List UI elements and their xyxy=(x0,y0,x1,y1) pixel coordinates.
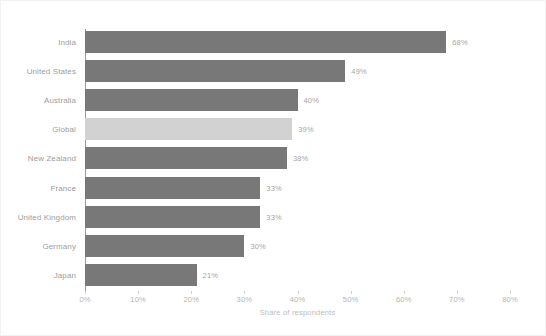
bar-row: France33% xyxy=(85,177,510,199)
category-label: India xyxy=(58,38,76,47)
bar-value-label: 39% xyxy=(298,125,314,134)
x-tick-label: 70% xyxy=(449,295,465,304)
x-tick-mark xyxy=(191,291,192,294)
bar-value-label: 30% xyxy=(250,241,266,250)
bar-row: United States49% xyxy=(85,60,510,82)
bar-row: Japan21% xyxy=(85,264,510,286)
bar[interactable] xyxy=(85,264,197,286)
bar-value-label: 40% xyxy=(304,96,320,105)
bar[interactable] xyxy=(85,235,244,257)
x-tick-label: 10% xyxy=(130,295,146,304)
x-tick-mark xyxy=(457,291,458,294)
x-tick-mark xyxy=(85,291,86,294)
category-label: Global xyxy=(52,125,76,134)
x-tick-mark xyxy=(510,291,511,294)
bar[interactable] xyxy=(85,177,260,199)
category-label: Australia xyxy=(44,96,76,105)
x-tick-label: 30% xyxy=(237,295,253,304)
x-axis-title: Share of respondents xyxy=(85,308,510,317)
x-tick-mark xyxy=(244,291,245,294)
x-tick-mark xyxy=(351,291,352,294)
bar-row: United Kingdom33% xyxy=(85,206,510,228)
x-axis: 0%10%20%30%40%50%60%70%80% xyxy=(85,291,510,307)
category-label: United States xyxy=(27,67,76,76)
bar[interactable] xyxy=(85,89,298,111)
bar[interactable] xyxy=(85,206,260,228)
bar[interactable] xyxy=(85,31,446,53)
bar-value-label: 21% xyxy=(203,270,219,279)
plot-area: India68%United States49%Australia40%Glob… xyxy=(85,29,510,291)
bar-value-label: 33% xyxy=(266,212,282,221)
bar-value-label: 33% xyxy=(266,183,282,192)
bar-row: India68% xyxy=(85,31,510,53)
x-tick-label: 60% xyxy=(396,295,412,304)
x-tick-label: 20% xyxy=(183,295,199,304)
x-tick-mark xyxy=(298,291,299,294)
category-label: New Zealand xyxy=(28,154,76,163)
x-tick-label: 40% xyxy=(290,295,306,304)
category-label: Japan xyxy=(54,270,76,279)
bar-row: Global39% xyxy=(85,118,510,140)
x-tick-label: 50% xyxy=(343,295,359,304)
bar-value-label: 68% xyxy=(452,38,468,47)
x-tick-label: 80% xyxy=(502,295,518,304)
bar-row: Australia40% xyxy=(85,89,510,111)
category-label: Germany xyxy=(42,241,76,250)
bar-value-label: 38% xyxy=(293,154,309,163)
bar-row: New Zealand38% xyxy=(85,147,510,169)
x-tick-mark xyxy=(404,291,405,294)
bar[interactable] xyxy=(85,118,292,140)
category-label: United Kingdom xyxy=(18,212,76,221)
bar-value-label: 49% xyxy=(351,67,367,76)
bar[interactable] xyxy=(85,60,345,82)
x-tick-mark xyxy=(138,291,139,294)
category-label: France xyxy=(51,183,77,192)
bar[interactable] xyxy=(85,147,287,169)
x-tick-label: 0% xyxy=(79,295,90,304)
bar-row: Germany30% xyxy=(85,235,510,257)
chart-figure: India68%United States49%Australia40%Glob… xyxy=(0,0,546,336)
